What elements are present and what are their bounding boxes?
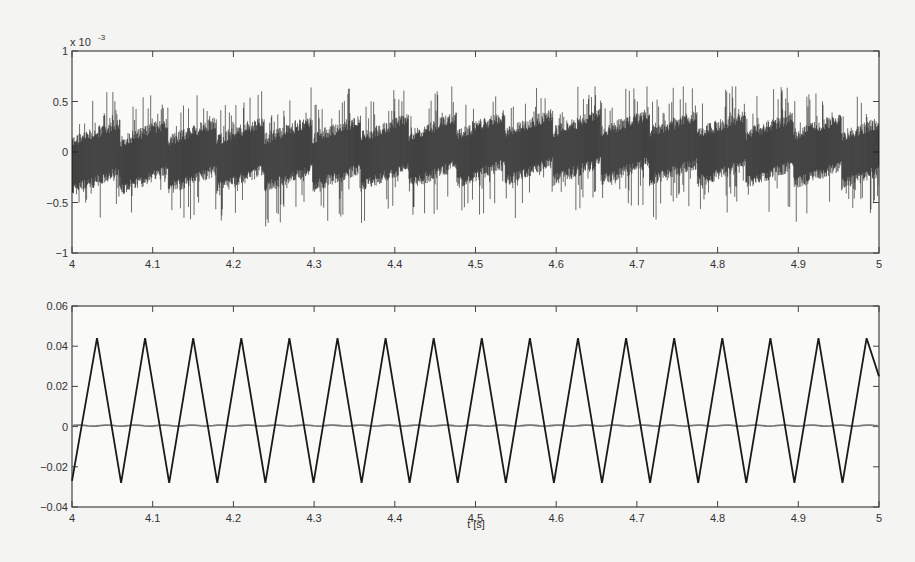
x-tick-label: 4.7: [629, 258, 644, 270]
y-tick-label: −1: [55, 247, 68, 259]
x-tick-label: 4.6: [549, 512, 564, 524]
x-tick-label: 4: [69, 512, 75, 524]
chart-canvas: 44.14.24.34.44.54.64.74.84.95−1−0.500.51…: [0, 0, 915, 562]
y-tick-label: 0: [62, 421, 68, 433]
near-zero-trace: [72, 425, 879, 426]
y-tick-label: −0.5: [46, 197, 68, 209]
x-tick-label: 5: [876, 258, 882, 270]
x-tick-label: 4.2: [226, 258, 241, 270]
x-tick-label: 4.3: [306, 258, 321, 270]
y-tick-label: 0.02: [47, 380, 68, 392]
top-scale-exponent: -3: [98, 33, 106, 42]
bottom-axes-frame: [72, 306, 879, 507]
bottom-x-axis-label: t [s]: [467, 518, 485, 530]
x-tick-label: 4.4: [387, 512, 402, 524]
x-tick-label: 4.9: [791, 258, 806, 270]
top-plot-panel: 44.14.24.34.44.54.64.74.84.95−1−0.500.51: [46, 45, 882, 270]
x-tick-label: 5: [876, 512, 882, 524]
top-scale-annotation: x 10: [70, 36, 91, 48]
y-tick-label: 0.04: [47, 340, 68, 352]
y-tick-label: 0.5: [53, 96, 68, 108]
x-tick-label: 4.8: [710, 258, 725, 270]
x-tick-label: 4.4: [387, 258, 402, 270]
y-tick-label: 1: [62, 45, 68, 57]
bottom-plot-panel: 44.14.24.34.44.54.64.74.84.95−0.04−0.020…: [40, 300, 882, 524]
y-tick-label: −0.02: [40, 461, 68, 473]
x-tick-label: 4.2: [226, 512, 241, 524]
y-tick-label: 0.06: [47, 300, 68, 312]
x-tick-label: 4.9: [791, 512, 806, 524]
x-tick-label: 4.7: [629, 512, 644, 524]
y-tick-label: 0: [62, 146, 68, 158]
x-tick-label: 4.8: [710, 512, 725, 524]
x-tick-label: 4: [69, 258, 75, 270]
x-tick-label: 4.1: [145, 512, 160, 524]
y-tick-label: −0.04: [40, 501, 68, 513]
x-tick-label: 4.3: [306, 512, 321, 524]
x-tick-label: 4.1: [145, 258, 160, 270]
x-tick-label: 4.5: [468, 258, 483, 270]
x-tick-label: 4.6: [549, 258, 564, 270]
